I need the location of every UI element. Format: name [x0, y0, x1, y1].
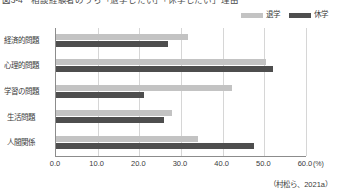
bar-休学-心理的問題	[56, 66, 273, 72]
bar-group	[56, 28, 306, 54]
legend-label-series-1: 休学	[314, 11, 328, 19]
chart-title: 図3-4 相談経験者のうち「退学したい」「休学したい」理由	[2, 0, 239, 4]
plot-area	[55, 28, 306, 156]
x-axis-line	[55, 156, 306, 157]
x-axis-tick-0: 0.0	[38, 159, 72, 168]
bar-group	[56, 130, 306, 156]
x-axis-unit: (%)	[313, 159, 324, 168]
chart-legend: 退学 休学	[241, 11, 328, 19]
bar-退学-経済的問題	[56, 34, 188, 40]
x-axis-tick-5: 50.0	[246, 159, 280, 168]
y-axis-label-1: 心理的問題	[0, 61, 51, 70]
bar-退学-人間関係	[56, 136, 198, 142]
bar-休学-生活問題	[56, 117, 164, 123]
y-axis-label-3: 生活問題	[0, 113, 51, 122]
legend-item-series-0: 退学	[241, 11, 280, 19]
bar-退学-学習の問題	[56, 85, 232, 91]
legend-swatch-retirement	[241, 13, 263, 18]
x-axis-tick-4: 40.0	[205, 159, 239, 168]
gridline	[306, 28, 307, 156]
chart-figure: 図3-4 相談経験者のうち「退学したい」「休学したい」理由 退学 休学 経済的問…	[0, 0, 340, 192]
bar-休学-経済的問題	[56, 41, 168, 47]
bar-退学-生活問題	[56, 110, 172, 116]
x-axis-tick-2: 20.0	[121, 159, 155, 168]
bar-group	[56, 54, 306, 80]
y-axis-label-2: 学習の問題	[0, 87, 51, 96]
bar-休学-学習の問題	[56, 92, 144, 98]
legend-label-series-0: 退学	[266, 11, 280, 19]
x-axis-tick-1: 10.0	[80, 159, 114, 168]
legend-item-series-1: 休学	[289, 11, 328, 19]
bar-退学-心理的問題	[56, 59, 266, 65]
bar-休学-人間関係	[56, 143, 254, 149]
y-axis-label-4: 人間関係	[0, 138, 51, 147]
bar-group	[56, 105, 306, 131]
legend-swatch-leave	[289, 13, 311, 18]
source-note: （村松ら、2021a）	[269, 178, 332, 189]
x-axis-tick-3: 30.0	[163, 159, 197, 168]
bar-group	[56, 79, 306, 105]
y-axis-label-0: 経済的問題	[0, 36, 51, 45]
